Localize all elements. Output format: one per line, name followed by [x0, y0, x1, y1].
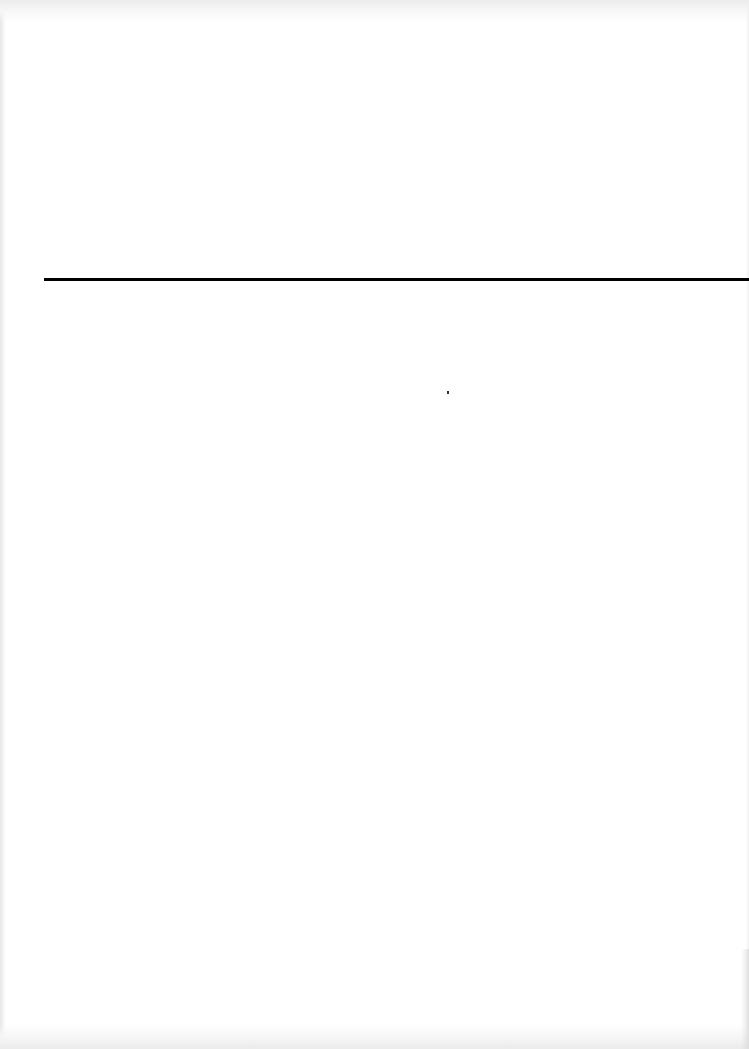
scan-shadow-top [0, 0, 749, 22]
document-page [0, 0, 749, 1049]
scan-speck [447, 391, 449, 394]
horizontal-rule [44, 278, 749, 281]
scan-shadow-bottom [0, 1025, 749, 1049]
scan-shadow-corner [741, 949, 749, 1049]
scan-shadow-left [0, 0, 6, 1049]
